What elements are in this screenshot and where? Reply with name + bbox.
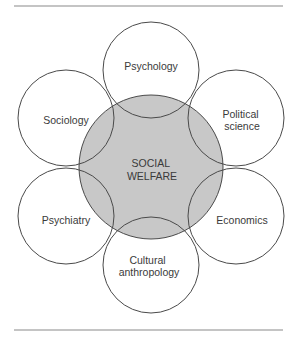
economics-label: Economics — [216, 214, 267, 226]
social-welfare-label: SOCIAL WELFARE — [127, 157, 177, 182]
social-welfare-diagram: Psychology Political science Economics C… — [0, 0, 296, 340]
psychology-label: Psychology — [124, 60, 178, 72]
sociology-label: Sociology — [43, 114, 89, 126]
political-science-label: Political science — [222, 108, 261, 132]
cultural-anthropology-label: Cultural anthropology — [119, 254, 180, 278]
psychiatry-label: Psychiatry — [42, 214, 91, 226]
